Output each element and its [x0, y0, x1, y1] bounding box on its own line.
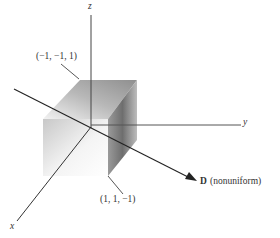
diagram-canvas: z y x (−1, −1, 1) (1, 1, −1) D (nonunifo…: [0, 0, 280, 238]
d-vector-arrowhead: [185, 172, 197, 181]
vector-d-note: (nonuniform): [210, 177, 261, 187]
corner-label-bottom: (1, 1, −1): [100, 195, 135, 205]
leader-top-corner: [61, 64, 79, 79]
leader-bottom-corner: [108, 176, 123, 194]
corner-label-top: (−1, −1, 1): [36, 52, 77, 62]
cube-front-face: [43, 119, 108, 176]
x-axis-label: x: [10, 222, 14, 232]
diagram-graphic: [0, 0, 280, 238]
y-axis-label: y: [243, 118, 247, 128]
z-axis-label: z: [88, 2, 92, 12]
vector-d-symbol: D: [200, 177, 207, 187]
